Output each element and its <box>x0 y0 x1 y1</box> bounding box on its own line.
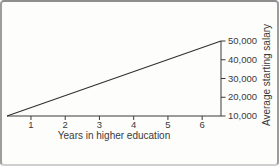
x-tick-label: 3 <box>89 120 109 130</box>
y-tick-label: 40,000 <box>228 55 257 65</box>
y-tick-label: 50,000 <box>228 36 257 46</box>
x-axis-title: Years in higher education <box>7 130 221 141</box>
salary-line <box>7 41 221 116</box>
chart-figure: 12345610,00020,00030,00040,00050,000 Yea… <box>0 0 279 166</box>
x-tick-label: 4 <box>124 120 144 130</box>
y-tick-label: 10,000 <box>228 111 257 121</box>
x-tick-label: 1 <box>21 120 41 130</box>
y-tick-label: 20,000 <box>228 92 257 102</box>
x-tick-label: 2 <box>55 120 75 130</box>
x-tick-label: 6 <box>192 120 212 130</box>
y-tick-label: 30,000 <box>228 74 257 84</box>
x-tick-label: 5 <box>158 120 178 130</box>
y-axis-title: Average starting salary <box>261 20 273 130</box>
